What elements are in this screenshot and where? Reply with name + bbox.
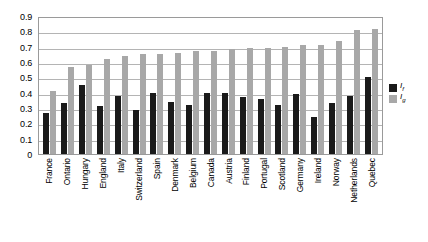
bar-group bbox=[59, 18, 77, 154]
x-axis-label-slot: Denmark bbox=[166, 156, 184, 242]
x-axis-tick-label: Scotland bbox=[278, 158, 287, 190]
x-axis-label-slot: Austria bbox=[220, 156, 238, 242]
x-axis-tick-label: Italy bbox=[116, 158, 125, 173]
legend-swatch-ig bbox=[389, 95, 397, 103]
bar-group bbox=[166, 18, 184, 154]
x-axis-tick-label: Norway bbox=[332, 158, 341, 186]
legend-swatch-if bbox=[389, 84, 397, 92]
bar-if bbox=[329, 103, 335, 154]
bar-ig bbox=[157, 54, 163, 154]
bar-if bbox=[61, 103, 67, 154]
bar-ig bbox=[50, 91, 56, 154]
bar-ig bbox=[122, 56, 128, 154]
x-axis-label-slot: Norway bbox=[327, 156, 345, 242]
x-axis-label-slot: Italy bbox=[112, 156, 130, 242]
bar-chart: 0.90.80.70.60.50.40.30.20.10 FranceOntar… bbox=[0, 0, 428, 242]
x-axis-tick-label: Finland bbox=[242, 158, 251, 185]
x-axis-label-slot: Quebec bbox=[363, 156, 381, 242]
bar-group bbox=[362, 18, 380, 154]
x-axis-label-slot: England bbox=[94, 156, 112, 242]
bar-group bbox=[327, 18, 345, 154]
x-axis-label-slot: Canada bbox=[202, 156, 220, 242]
y-axis-tick-label: 0 bbox=[27, 151, 32, 160]
bar-if bbox=[97, 106, 103, 154]
bar-ig bbox=[68, 67, 74, 154]
bar-ig bbox=[282, 47, 288, 154]
x-axis-tick-label: France bbox=[44, 158, 53, 184]
x-axis-label-slot: Scotland bbox=[273, 156, 291, 242]
y-axis-tick-label: 0.4 bbox=[20, 89, 32, 98]
y-axis-tick-label: 0.8 bbox=[20, 28, 32, 37]
bar-if bbox=[347, 96, 353, 154]
legend-label-if: If bbox=[400, 82, 404, 93]
x-axis-label-slot: Spain bbox=[148, 156, 166, 242]
y-axis-tick-label: 0.1 bbox=[20, 135, 32, 144]
bar-group bbox=[202, 18, 220, 154]
legend-item-ig: Ig bbox=[389, 93, 428, 104]
x-axis-label-slot: Ireland bbox=[309, 156, 327, 242]
legend: IfIg bbox=[389, 82, 428, 104]
x-axis-tick-label: Portugal bbox=[260, 158, 269, 189]
bar-if bbox=[133, 110, 139, 154]
bar-if bbox=[168, 102, 174, 154]
bar-ig bbox=[193, 51, 199, 154]
x-axis-tick-label: Canada bbox=[206, 158, 215, 187]
bar-if bbox=[258, 99, 264, 154]
x-axis-tick-label: Quebec bbox=[368, 158, 377, 187]
bar-ig bbox=[300, 45, 306, 154]
bar-ig bbox=[140, 54, 146, 154]
bar-if bbox=[222, 93, 228, 154]
bar-group bbox=[77, 18, 95, 154]
x-axis-label-slot: Finland bbox=[237, 156, 255, 242]
x-axis-tick-label: Belgium bbox=[188, 158, 197, 188]
x-axis-tick-label: Ireland bbox=[314, 158, 323, 183]
y-axis-tick-label: 0.3 bbox=[20, 105, 32, 114]
bar-group bbox=[184, 18, 202, 154]
bar-if bbox=[240, 97, 246, 154]
x-axis-tick-label: England bbox=[98, 158, 107, 189]
bar-ig bbox=[175, 53, 181, 154]
x-axis-tick-label: Hungary bbox=[80, 158, 89, 189]
bar-group bbox=[130, 18, 148, 154]
x-axis-labels: FranceOntarioHungaryEnglandItalySwitzerl… bbox=[38, 156, 383, 242]
bar-group bbox=[344, 18, 362, 154]
y-axis-tick-label: 0.2 bbox=[20, 120, 32, 129]
plot-area bbox=[38, 17, 383, 155]
x-axis-label-slot: Germany bbox=[291, 156, 309, 242]
y-axis: 0.90.80.70.60.50.40.30.20.10 bbox=[0, 10, 36, 160]
bar-ig bbox=[318, 45, 324, 154]
bar-group bbox=[95, 18, 113, 154]
bar-ig bbox=[104, 59, 110, 154]
y-axis-tick-label: 0.6 bbox=[20, 59, 32, 68]
bar-group bbox=[309, 18, 327, 154]
bar-if bbox=[275, 105, 281, 154]
bar-ig bbox=[265, 48, 271, 154]
legend-label-ig: Ig bbox=[400, 93, 406, 104]
bar-if bbox=[150, 93, 156, 154]
y-axis-tick-label: 0.5 bbox=[20, 74, 32, 83]
bar-ig bbox=[336, 41, 342, 154]
x-axis-tick-label: Ontario bbox=[62, 158, 71, 185]
bar-if bbox=[79, 85, 85, 154]
bar-group bbox=[148, 18, 166, 154]
x-axis-label-slot: France bbox=[40, 156, 58, 242]
bar-ig bbox=[229, 49, 235, 154]
y-axis-tick-label: 0.9 bbox=[20, 13, 32, 22]
y-axis-tick-label: 0.7 bbox=[20, 43, 32, 52]
bar-ig bbox=[247, 48, 253, 154]
x-axis-tick-label: Austria bbox=[224, 158, 233, 184]
x-axis-tick-label: Germany bbox=[296, 158, 305, 192]
legend-item-if: If bbox=[389, 82, 428, 93]
bar-if bbox=[293, 94, 299, 154]
bar-ig bbox=[354, 30, 360, 154]
x-axis-label-slot: Ontario bbox=[58, 156, 76, 242]
bar-if bbox=[186, 105, 192, 154]
bar-group bbox=[255, 18, 273, 154]
bar-group bbox=[112, 18, 130, 154]
bar-ig bbox=[372, 29, 378, 154]
x-axis-label-slot: Hungary bbox=[76, 156, 94, 242]
bar-group bbox=[219, 18, 237, 154]
bar-group bbox=[41, 18, 59, 154]
bar-ig bbox=[211, 51, 217, 155]
bar-group bbox=[291, 18, 309, 154]
